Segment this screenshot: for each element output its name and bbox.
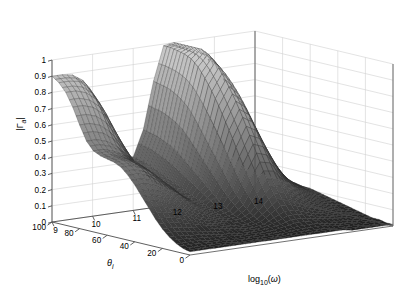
svg-text:0.5: 0.5 xyxy=(35,137,47,146)
svg-text:1: 1 xyxy=(41,56,46,65)
theta-axis-label: θi xyxy=(107,258,113,270)
svg-text:12: 12 xyxy=(173,208,183,217)
svg-text:11: 11 xyxy=(132,214,141,223)
svg-text:0.9: 0.9 xyxy=(35,72,47,81)
svg-text:10: 10 xyxy=(92,220,102,229)
svg-text:13: 13 xyxy=(213,202,223,211)
svg-text:0.4: 0.4 xyxy=(35,153,47,162)
svg-text:9: 9 xyxy=(53,226,58,235)
y-axis-label: |Γa| xyxy=(15,109,27,139)
svg-text:0.8: 0.8 xyxy=(35,88,47,97)
svg-text:60: 60 xyxy=(92,236,102,245)
svg-text:20: 20 xyxy=(147,249,157,258)
y-axis-label-text: |Γa| xyxy=(15,117,25,131)
svg-text:80: 80 xyxy=(64,229,74,238)
svg-text:0.6: 0.6 xyxy=(35,121,47,130)
svg-text:0: 0 xyxy=(179,256,184,265)
surface-plot-canvas: 10.90.80.70.60.50.40.30.20.1010080604020… xyxy=(0,0,395,308)
svg-text:14: 14 xyxy=(254,197,264,206)
svg-text:0.3: 0.3 xyxy=(35,169,47,178)
svg-text:0.2: 0.2 xyxy=(35,186,47,195)
svg-text:40: 40 xyxy=(120,242,130,251)
svg-text:100: 100 xyxy=(32,223,46,232)
svg-text:0.7: 0.7 xyxy=(35,105,47,114)
svg-text:0.1: 0.1 xyxy=(35,202,47,211)
omega-axis-label: log10(ω) xyxy=(248,274,281,286)
figure-container: 10.90.80.70.60.50.40.30.20.1010080604020… xyxy=(0,0,395,308)
